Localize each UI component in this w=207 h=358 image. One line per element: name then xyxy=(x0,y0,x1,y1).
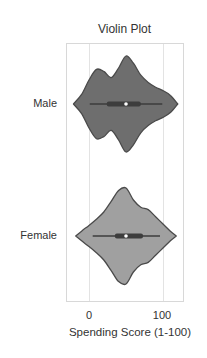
violin-chart: Violin Plot Male Female 0 100 Spending S… xyxy=(0,0,207,358)
category-label-female: Female xyxy=(20,229,57,241)
category-label-male: Male xyxy=(33,97,57,109)
median-dot xyxy=(124,234,128,238)
iqr-box xyxy=(107,102,141,107)
x-tick-0: 0 xyxy=(86,309,92,321)
x-axis-label: Spending Score (1-100) xyxy=(40,326,207,338)
iqr-box xyxy=(115,234,143,239)
median-dot xyxy=(124,102,128,106)
plot-area xyxy=(0,0,207,358)
x-tick-100: 100 xyxy=(153,309,171,321)
